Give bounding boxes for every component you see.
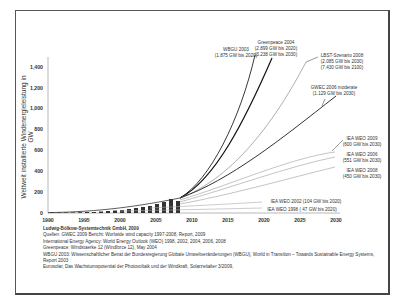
x-tick: 2015 [222,217,234,223]
x-tick: 1990 [42,217,54,223]
series-greenpeace-2004 [180,58,272,198]
x-tick: 2005 [150,217,162,223]
label-wbgu-value: (1.875 GW bis 2020) [215,53,258,58]
x-tick-labels: 1990 1995 2000 2005 2010 2015 2020 2025 … [42,217,342,223]
x-tick: 2020 [258,217,270,223]
label-iea2008: IEA WEO 2008 [347,168,378,173]
label-iea1998: IEA WEO 1998 ( 47 GW bis 2020) [267,207,337,212]
label-gwec-value: (1.129 GW bis 2030) [313,91,356,96]
series-gwec-2006 [180,96,336,198]
series-lbst-2008 [180,62,306,198]
x-tick: 2030 [330,217,342,223]
footer-line: Eurosolar, Das Wachstumspotential der Ph… [43,264,374,270]
x-tick: 1995 [78,217,90,223]
y-tick: 600 [34,147,43,153]
lbst-pointer [306,57,318,62]
y-tick: 200 [34,189,43,195]
series-iea-weo-2002 [150,202,262,208]
label-greenpeace-2020: (2.899 GW bis 2020) [255,46,298,51]
y-tick: 800 [34,126,43,132]
chart-footer: Ludwig-Bölkow-Systemtechnik GmbH, 2009 Q… [43,226,374,271]
label-greenpeace: Greenpeace 2004 [258,40,295,45]
x-tick: 2010 [186,217,198,223]
label-lbst-2030: (2.085 GW bis 2030) [321,59,364,64]
label-iea2006: IEA WEO 2006 [347,152,378,157]
y-tick: 1,400 [30,64,43,70]
label-lbst-2100: (7.430 GW bis 2100) [321,65,364,70]
label-iea2009-value: (600 GW bis 2030) [343,142,382,147]
x-tick: 2025 [294,217,306,223]
label-gwec: GWEC 2006 moderate [311,85,358,90]
y-tick: 400 [34,168,43,174]
footer-line: WBGU 2003: Wissenschaftlicher Beirat der… [43,252,374,258]
label-iea2009: IEA WEO 2009 [347,136,378,141]
x-tick: 2000 [114,217,126,223]
label-greenpeace-2030: (3.238 GW bis 2030) [255,52,298,57]
label-iea2006-value: (551 GW bis 2030) [343,158,382,163]
label-iea2008-value: (450 GW bis 2030) [343,174,382,179]
y-tick: 0 [40,210,43,216]
label-iea2002: IEA WEO 2002 (104 GW bis 2020) [271,199,342,204]
label-lbst: LBST-Szenario 2008 [321,53,364,58]
label-wbgu: WBGU 2003 [223,47,249,52]
y-axis-label: Weltweit installierte Windenergieleistun… [20,72,34,202]
iea2009-pointer [332,140,343,151]
